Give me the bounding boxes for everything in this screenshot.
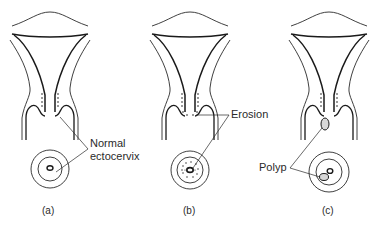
uterus-outline <box>10 12 90 140</box>
caption-b: (b) <box>183 205 195 216</box>
label-polyp: Polyp <box>259 161 287 174</box>
label-normal-ectocervix: Normal ectocervix <box>90 137 140 163</box>
panel-c <box>289 12 369 192</box>
cervix-diagram <box>0 0 385 230</box>
uterus-outline <box>289 12 369 140</box>
label-line: Normal <box>90 137 140 150</box>
cervix-end-view <box>171 151 209 189</box>
cervix-end-view <box>31 150 69 188</box>
leader-lines <box>290 128 322 177</box>
caption-c: (c) <box>322 205 334 216</box>
panel-a <box>10 12 90 188</box>
label-line: Erosion <box>231 108 268 121</box>
panel-b <box>150 12 230 189</box>
uterus-outline <box>150 12 230 140</box>
label-erosion: Erosion <box>231 108 268 121</box>
cervix-end-view <box>309 152 349 192</box>
label-line: Polyp <box>259 161 287 174</box>
label-line: ectocervix <box>90 150 140 163</box>
leader-lines <box>193 115 229 168</box>
caption-a: (a) <box>42 205 54 216</box>
